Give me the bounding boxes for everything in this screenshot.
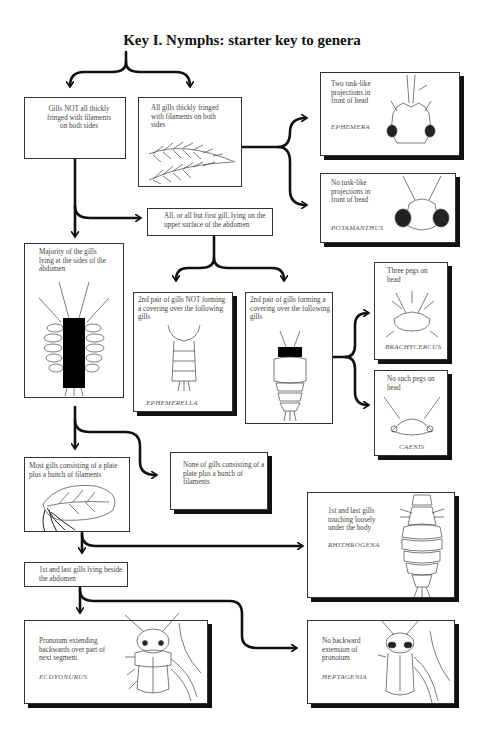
caenis-head-illustration: [380, 395, 444, 437]
node-ephemera: Two tusk-like projections in front of he…: [320, 72, 460, 156]
node-beside-abdomen: 1st and last gills lying beside the abdo…: [24, 562, 128, 587]
node-caenis: No such pegs on head CAENIS: [374, 370, 448, 456]
node-covering: 2nd pair of gills forming a covering ove…: [245, 292, 333, 424]
covering-gills-nymph-illustration: [260, 329, 320, 423]
node-heptagenia: No backward extension of pronotum HEPTAG…: [307, 620, 455, 704]
node-potamanthus: No tusk-like projections in front of hea…: [320, 173, 456, 243]
potamanthus-head-illustration: [389, 174, 453, 244]
node-ecdyonurus: Pronotum extending backwards over part o…: [24, 620, 208, 704]
ecdyonurus-nymph-illustration: [121, 613, 205, 703]
fringed-gill-illustration: [143, 140, 239, 184]
node-rhithrogena: 1st and last gills touching loosely unde…: [307, 492, 455, 598]
plate-gill-illustration: [29, 482, 129, 532]
node-sides-abdomen: Majority of the gills lying at the sides…: [24, 243, 124, 398]
brachycercus-head-illustration: [382, 289, 442, 339]
ephemerella-nymph-illustration: [160, 323, 210, 393]
ephemera-head-illustration: [385, 73, 455, 157]
node-upper-surface: All, or all but first gill, lying on the…: [147, 208, 273, 236]
node-gills-fringed: All gills thickly fringed with filaments…: [138, 97, 242, 187]
node-brachycercus: Three pegs on head BRACHYCERCUS: [374, 262, 448, 360]
node-plate-filaments: Most gills consisting of a plate plus a …: [24, 457, 130, 532]
node-ephemerella: 2nd pair of gills NOT forming a covering…: [133, 292, 233, 412]
node-gills-not-fringed: Gills NOT all thickly fringed with filam…: [24, 97, 126, 159]
node-no-plate: None of gills consisting of a plate plus…: [170, 452, 268, 510]
heptagenia-nymph-illustration: [374, 621, 454, 705]
sides-gills-nymph-illustration: [29, 278, 119, 396]
rhithrogena-nymph-illustration: [392, 493, 452, 597]
